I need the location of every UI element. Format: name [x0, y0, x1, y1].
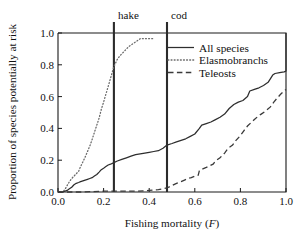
x-tick-label: 0.2 — [97, 195, 111, 207]
y-tick-label: 0.2 — [40, 154, 54, 166]
cod-reference-label: cod — [171, 9, 187, 21]
x-axis-title-text: Fishing mortality ( — [125, 217, 209, 230]
y-axis-title: Proportion of species potentially at ris… — [6, 24, 18, 201]
x-tick-label: 0.6 — [188, 195, 202, 207]
x-tick-label: 1.0 — [279, 195, 293, 207]
chart-svg: 0.0 0.2 0.4 0.6 0.8 1.0 0.0 0.2 0.4 0.6 … — [0, 0, 303, 242]
y-tick-label: 0.6 — [40, 91, 54, 103]
x-tick-label: 0.0 — [51, 195, 65, 207]
x-axis-title: Fishing mortality (F) — [125, 217, 220, 230]
x-axis-title-italic: F — [208, 217, 216, 229]
legend-label-all-species: All species — [199, 42, 249, 54]
x-axis-title-close: ) — [216, 217, 220, 230]
y-tick-label: 1.0 — [40, 27, 54, 39]
x-tick-label: 0.4 — [142, 195, 156, 207]
legend-label-elasmobranchs: Elasmobranchs — [199, 54, 268, 66]
hake-reference-label: hake — [118, 9, 139, 21]
y-tick-label: 0.4 — [40, 122, 54, 134]
x-tick-label: 0.8 — [234, 195, 248, 207]
figure-container: 0.0 0.2 0.4 0.6 0.8 1.0 0.0 0.2 0.4 0.6 … — [0, 0, 303, 242]
y-tick-label: 0.8 — [40, 59, 54, 71]
legend-label-teleosts: Teleosts — [199, 67, 236, 79]
